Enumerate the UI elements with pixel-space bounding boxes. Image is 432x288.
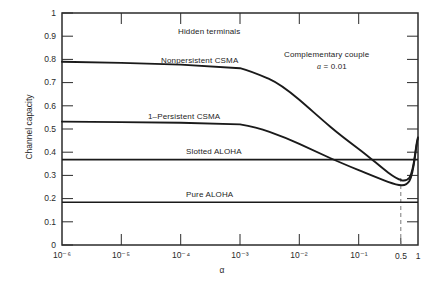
param-a-value: = 0.01 — [321, 62, 347, 71]
plot-frame — [62, 13, 418, 245]
x-axis-ticks-top — [121, 13, 358, 24]
chart-figure — [0, 0, 432, 288]
y-tick-label: 0.8 — [22, 54, 56, 64]
y-axis-ticks — [62, 13, 73, 245]
annotation-hidden-terminals: Hidden terminals — [178, 27, 240, 36]
y-tick-label: 0 — [22, 240, 56, 250]
x-axis-ticks — [121, 234, 401, 245]
x-tick-label: 10⁻⁶ — [42, 250, 82, 260]
y-tick-label: 0.9 — [22, 31, 56, 41]
x-tick-label: 10⁻¹ — [339, 250, 379, 260]
x-tick-label: 10⁻⁵ — [101, 250, 141, 260]
y-tick-label: 1 — [22, 8, 56, 18]
annotation-complementary-couple: Complementary couple — [284, 50, 369, 59]
y-axis-ticks-right — [407, 36, 418, 222]
curve-nonpersistent-csma — [62, 62, 418, 181]
label-one-persistent-csma: 1–Persistent CSMA — [148, 112, 220, 121]
x-tick-label: 10⁻³ — [220, 250, 260, 260]
x-tick-label: 10⁻² — [279, 250, 319, 260]
x-tick-label: 10⁻⁴ — [161, 250, 201, 260]
y-tick-label: 0.1 — [22, 217, 56, 227]
y-axis-title: Channel capacity — [24, 72, 34, 182]
y-tick-label: 0.2 — [22, 193, 56, 203]
x-tick-label: 1 — [398, 251, 432, 261]
label-nonpersistent-csma: Nonpersistent CSMA — [161, 56, 238, 65]
annotation-couple-param: a = 0.01 — [284, 62, 380, 71]
label-pure-aloha: Pure ALOHA — [186, 190, 233, 199]
label-slotted-aloha: Slotted ALOHA — [186, 147, 242, 156]
x-axis-title: α — [207, 265, 237, 275]
